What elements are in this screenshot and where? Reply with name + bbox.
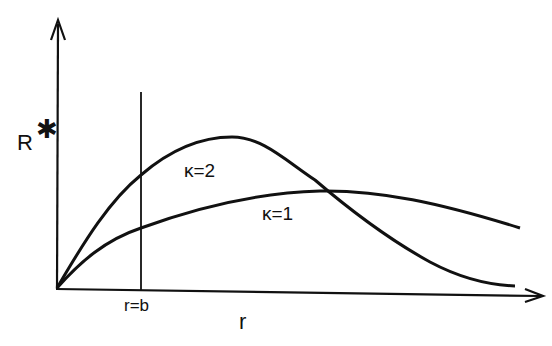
figure: R✱ κ=2 κ=1 r=b r	[0, 0, 552, 346]
plot-canvas	[0, 0, 552, 346]
curve-label-kappa-2: κ=2	[184, 161, 215, 180]
x-axis-label: r	[239, 311, 246, 333]
marker-label-r-equals-b: r=b	[124, 297, 149, 314]
y-axis	[51, 20, 65, 289]
asterisk-icon: ✱	[36, 114, 58, 144]
curve-label-kappa-1: κ=1	[262, 204, 293, 223]
y-axis-label: R✱	[17, 128, 58, 154]
